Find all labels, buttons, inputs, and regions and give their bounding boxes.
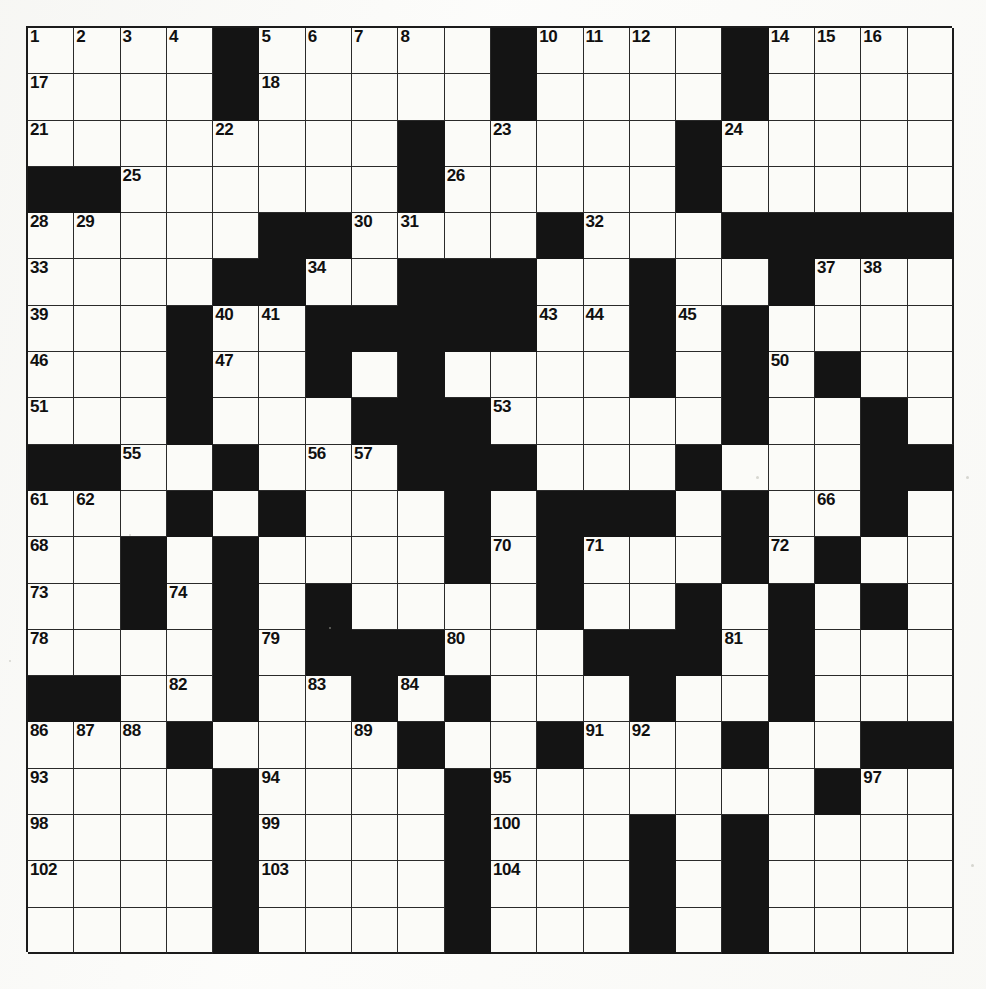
- crossword-cell[interactable]: [306, 537, 352, 583]
- crossword-cell[interactable]: [167, 213, 213, 259]
- crossword-cell[interactable]: [630, 445, 676, 491]
- crossword-cell[interactable]: [213, 722, 259, 768]
- crossword-cell[interactable]: 37: [815, 259, 861, 305]
- crossword-cell[interactable]: [491, 584, 537, 630]
- crossword-cell[interactable]: [908, 908, 954, 954]
- crossword-cell[interactable]: 102: [28, 861, 74, 907]
- crossword-cell[interactable]: [537, 121, 583, 167]
- crossword-cell[interactable]: [259, 537, 305, 583]
- crossword-cell[interactable]: 47: [213, 352, 259, 398]
- crossword-cell[interactable]: 45: [676, 306, 722, 352]
- crossword-cell[interactable]: [306, 815, 352, 861]
- crossword-cell[interactable]: [445, 584, 491, 630]
- crossword-cell[interactable]: [815, 121, 861, 167]
- crossword-cell[interactable]: [398, 769, 444, 815]
- crossword-cell[interactable]: [352, 259, 398, 305]
- crossword-cell[interactable]: [259, 908, 305, 954]
- crossword-cell[interactable]: [352, 74, 398, 120]
- crossword-cell[interactable]: [584, 74, 630, 120]
- crossword-grid[interactable]: 1234567810111214151617182122232425262829…: [26, 26, 952, 952]
- crossword-cell[interactable]: [908, 769, 954, 815]
- crossword-cell[interactable]: 11: [584, 28, 630, 74]
- crossword-cell[interactable]: [537, 815, 583, 861]
- crossword-cell[interactable]: [861, 306, 907, 352]
- crossword-cell[interactable]: [306, 908, 352, 954]
- crossword-cell[interactable]: [213, 491, 259, 537]
- crossword-cell[interactable]: [815, 908, 861, 954]
- crossword-cell[interactable]: 93: [28, 769, 74, 815]
- crossword-cell[interactable]: [584, 398, 630, 444]
- crossword-cell[interactable]: 70: [491, 537, 537, 583]
- crossword-cell[interactable]: [74, 74, 120, 120]
- crossword-cell[interactable]: [121, 213, 167, 259]
- crossword-cell[interactable]: [537, 769, 583, 815]
- crossword-cell[interactable]: [213, 167, 259, 213]
- crossword-cell[interactable]: [676, 352, 722, 398]
- crossword-cell[interactable]: [352, 121, 398, 167]
- crossword-cell[interactable]: [74, 398, 120, 444]
- crossword-cell[interactable]: [537, 398, 583, 444]
- crossword-cell[interactable]: [584, 259, 630, 305]
- crossword-cell[interactable]: [537, 908, 583, 954]
- crossword-cell[interactable]: 55: [121, 445, 167, 491]
- crossword-cell[interactable]: 21: [28, 121, 74, 167]
- crossword-cell[interactable]: [74, 861, 120, 907]
- crossword-cell[interactable]: [769, 861, 815, 907]
- crossword-cell[interactable]: [306, 722, 352, 768]
- crossword-cell[interactable]: [908, 121, 954, 167]
- crossword-cell[interactable]: [167, 445, 213, 491]
- crossword-cell[interactable]: [584, 352, 630, 398]
- crossword-cell[interactable]: [769, 815, 815, 861]
- crossword-cell[interactable]: [676, 815, 722, 861]
- crossword-cell[interactable]: [676, 908, 722, 954]
- crossword-cell[interactable]: [584, 445, 630, 491]
- crossword-cell[interactable]: [213, 398, 259, 444]
- crossword-cell[interactable]: [74, 584, 120, 630]
- crossword-cell[interactable]: 73: [28, 584, 74, 630]
- crossword-cell[interactable]: [815, 584, 861, 630]
- crossword-cell[interactable]: [259, 445, 305, 491]
- crossword-cell[interactable]: [167, 259, 213, 305]
- crossword-cell[interactable]: [769, 769, 815, 815]
- crossword-cell[interactable]: [445, 121, 491, 167]
- crossword-cell[interactable]: [769, 306, 815, 352]
- crossword-cell[interactable]: [815, 398, 861, 444]
- crossword-cell[interactable]: [630, 121, 676, 167]
- crossword-cell[interactable]: 74: [167, 584, 213, 630]
- crossword-cell[interactable]: [861, 74, 907, 120]
- crossword-cell[interactable]: [769, 445, 815, 491]
- crossword-cell[interactable]: [398, 491, 444, 537]
- crossword-cell[interactable]: [584, 584, 630, 630]
- crossword-cell[interactable]: [259, 167, 305, 213]
- crossword-cell[interactable]: 87: [74, 722, 120, 768]
- crossword-cell[interactable]: [676, 74, 722, 120]
- crossword-cell[interactable]: [722, 676, 768, 722]
- crossword-cell[interactable]: [491, 630, 537, 676]
- crossword-cell[interactable]: 12: [630, 28, 676, 74]
- crossword-cell[interactable]: 16: [861, 28, 907, 74]
- crossword-cell[interactable]: 24: [722, 121, 768, 167]
- crossword-cell[interactable]: [861, 352, 907, 398]
- crossword-cell[interactable]: [398, 908, 444, 954]
- crossword-cell[interactable]: 56: [306, 445, 352, 491]
- crossword-cell[interactable]: [676, 722, 722, 768]
- crossword-cell[interactable]: 98: [28, 815, 74, 861]
- crossword-cell[interactable]: 66: [815, 491, 861, 537]
- crossword-cell[interactable]: [584, 121, 630, 167]
- crossword-cell[interactable]: [769, 121, 815, 167]
- crossword-cell[interactable]: [861, 121, 907, 167]
- crossword-cell[interactable]: [676, 491, 722, 537]
- crossword-cell[interactable]: [676, 213, 722, 259]
- crossword-cell[interactable]: [491, 722, 537, 768]
- crossword-cell[interactable]: [861, 167, 907, 213]
- crossword-cell[interactable]: [167, 769, 213, 815]
- crossword-cell[interactable]: [121, 121, 167, 167]
- crossword-cell[interactable]: [584, 167, 630, 213]
- crossword-cell[interactable]: [722, 769, 768, 815]
- crossword-cell[interactable]: [306, 861, 352, 907]
- crossword-cell[interactable]: [630, 74, 676, 120]
- crossword-cell[interactable]: [676, 259, 722, 305]
- crossword-cell[interactable]: [259, 398, 305, 444]
- crossword-cell[interactable]: [676, 28, 722, 74]
- crossword-cell[interactable]: [769, 167, 815, 213]
